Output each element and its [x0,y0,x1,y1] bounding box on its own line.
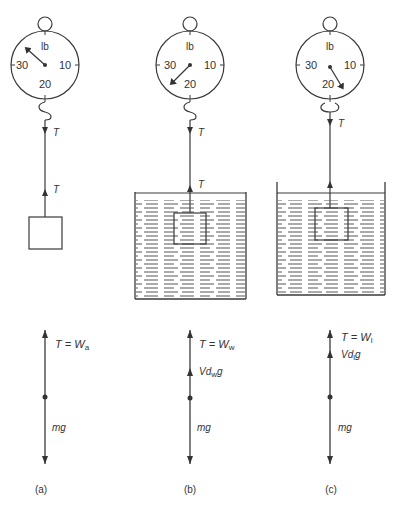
force-label-buoyancy: Vdlg [341,349,361,362]
buoyancy-arrow-icon [187,368,193,376]
arrow-up-icon [42,330,48,338]
force-label-weight: mg [338,422,352,433]
tension-label-top: T [338,118,345,129]
block [29,217,62,249]
force-label-tension: T = Wl [341,331,373,345]
center-of-mass-dot [188,396,193,401]
free-body-diagram-c: T = Wl Vdlg mg [327,330,373,464]
hook-icon [321,103,339,112]
scale-tick-20: 20 [184,78,196,90]
caption-c: (c) [325,484,337,495]
scale-tick-20: 20 [39,78,51,90]
hook-icon [39,102,51,120]
buoyancy-diagram: lb 30 10 20 T T T = Wa mg (a) [0,0,394,513]
spring-scale: lb 30 10 20 [11,17,79,120]
arrow-down-icon [327,456,333,464]
scale-unit-label: lb [326,41,334,52]
scale-tick-10: 10 [204,59,216,71]
scale-ring-icon [323,17,337,31]
water-container [135,192,246,299]
force-label-buoyancy: Vdwg [199,366,223,379]
tension-label-bottom: T [53,184,60,195]
scale-tick-10: 10 [59,59,71,71]
arrow-down-icon [187,456,193,464]
force-label-weight: mg [52,422,66,433]
tension-label-bottom: T [198,179,205,190]
spring-scale: lb 30 10 20 [156,17,224,120]
force-label-tension: T = Wa [55,338,90,352]
scale-tick-30: 30 [164,59,176,71]
buoyancy-arrow-icon [327,350,333,358]
panel-a: lb 30 10 20 T T T = Wa mg (a) [11,17,90,495]
scale-tick-20: 20 [322,78,334,90]
force-label-weight: mg [197,422,211,433]
tension-label-top: T [53,127,60,138]
spring-scale: lb 30 10 20 [296,17,364,112]
liquid-container [277,182,385,295]
arrow-up-icon [327,330,333,338]
center-of-mass-dot [328,395,333,400]
arrow-down-icon [42,456,48,464]
tension-label-top: T [198,127,205,138]
caption-b: (b) [184,484,196,495]
scale-tick-10: 10 [344,59,356,71]
hook-icon [184,102,196,120]
center-of-mass-dot [43,395,48,400]
arrow-up-icon [187,330,193,338]
free-body-diagram-a: T = Wa mg [42,330,90,464]
force-label-tension: T = Ww [199,338,235,352]
panel-b: lb 30 10 20 T T T = Ww [135,17,246,495]
scale-tick-30: 30 [305,59,317,71]
scale-ring-icon [183,17,197,31]
scale-tick-30: 30 [16,59,28,71]
scale-ring-icon [38,17,52,31]
panel-c: lb 30 10 20 T T = Wl Vdlg [277,17,385,495]
scale-unit-label: lb [41,41,49,52]
caption-a: (a) [35,484,47,495]
scale-unit-label: lb [186,41,194,52]
free-body-diagram-b: T = Ww Vdwg mg [187,330,235,464]
